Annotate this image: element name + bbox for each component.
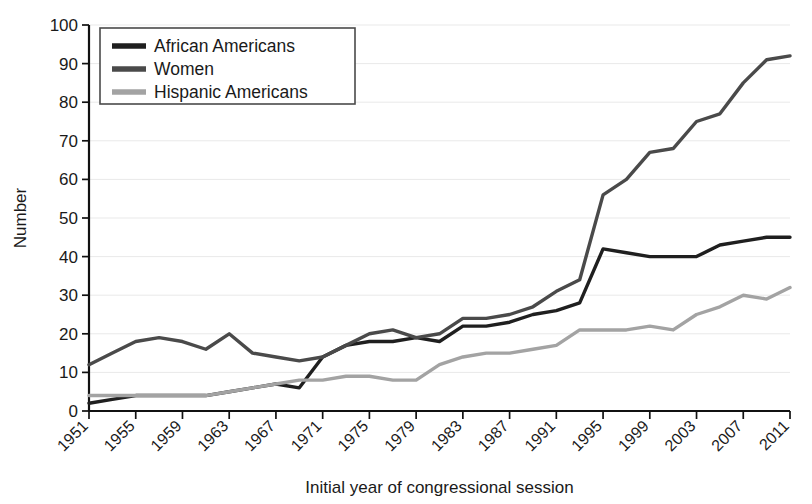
- line-chart: 0102030405060708090100195119551959196319…: [0, 0, 812, 504]
- x-tick-label: 1959: [147, 417, 184, 454]
- x-tick-label: 1979: [381, 417, 418, 454]
- y-tick-label: 30: [59, 286, 78, 305]
- x-tick-label: 1971: [288, 417, 325, 454]
- x-tick-label: 2011: [756, 417, 792, 453]
- y-tick-label: 60: [59, 170, 78, 189]
- x-tick-label: 1967: [241, 417, 278, 454]
- y-tick-label: 0: [69, 402, 78, 421]
- x-tick-label: 1951: [54, 417, 91, 454]
- legend-label-1: Women: [154, 59, 214, 79]
- x-tick-label: 1991: [521, 417, 558, 454]
- y-axis-title: Number: [11, 187, 30, 248]
- y-tick-label: 10: [59, 363, 78, 382]
- y-tick-label: 40: [59, 248, 78, 267]
- legend-label-0: African Americans: [154, 36, 295, 56]
- y-tick-label: 100: [50, 16, 78, 35]
- y-tick-label: 80: [59, 93, 78, 112]
- y-tick-label: 20: [59, 325, 78, 344]
- legend-label-2: Hispanic Americans: [154, 82, 308, 102]
- chart-container: 0102030405060708090100195119551959196319…: [0, 0, 812, 504]
- x-tick-label: 1995: [568, 417, 605, 454]
- x-tick-label: 1975: [334, 417, 371, 454]
- x-tick-label: 1955: [101, 417, 138, 454]
- x-axis-title: Initial year of congressional session: [305, 478, 573, 497]
- x-tick-label: 2007: [708, 417, 745, 454]
- x-tick-label: 2003: [661, 417, 698, 454]
- x-tick-label: 1999: [615, 417, 652, 454]
- y-tick-label: 50: [59, 209, 78, 228]
- x-tick-label: 1963: [194, 417, 231, 454]
- x-tick-label: 1987: [475, 417, 512, 454]
- y-tick-label: 70: [59, 132, 78, 151]
- y-tick-label: 90: [59, 55, 78, 74]
- x-tick-label: 1983: [428, 417, 465, 454]
